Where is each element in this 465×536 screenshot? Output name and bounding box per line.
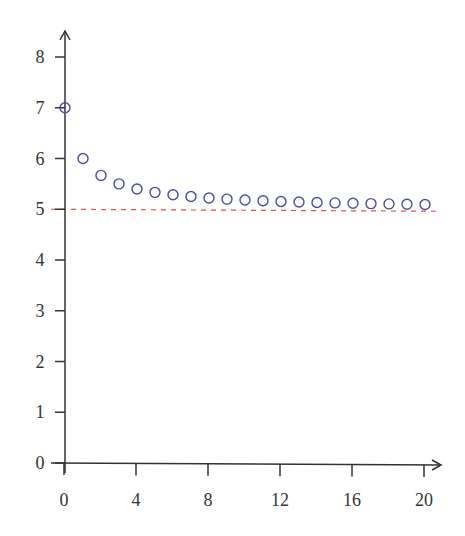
y-tick-label: 3 xyxy=(36,301,45,321)
data-point xyxy=(204,193,214,203)
data-point xyxy=(402,199,412,209)
data-point xyxy=(96,170,106,180)
data-point xyxy=(240,195,250,205)
data-points xyxy=(60,103,430,210)
y-tick-label: 6 xyxy=(36,149,45,169)
data-point xyxy=(348,198,358,208)
x-tick-label: 20 xyxy=(415,490,433,510)
y-tick-label: 1 xyxy=(36,402,45,422)
data-point xyxy=(258,196,268,206)
y-tick-label: 4 xyxy=(36,250,45,270)
y-tick-label: 8 xyxy=(36,47,45,67)
data-point xyxy=(294,197,304,207)
x-tick-label: 8 xyxy=(204,490,213,510)
x-axis xyxy=(51,463,441,465)
x-tick-label: 0 xyxy=(60,490,69,510)
reference-lines xyxy=(51,209,437,211)
data-point xyxy=(330,198,340,208)
data-point xyxy=(420,199,430,209)
data-point xyxy=(312,198,322,208)
y-tick-label: 5 xyxy=(36,199,45,219)
data-point xyxy=(366,199,376,209)
data-point xyxy=(276,196,286,206)
data-point xyxy=(168,190,178,200)
x-tick-label: 16 xyxy=(343,490,361,510)
chart: 012345678 048121620 xyxy=(0,0,465,536)
data-point xyxy=(114,179,124,189)
data-point xyxy=(186,192,196,202)
x-tick-label: 12 xyxy=(271,490,289,510)
scatter-plot: 012345678 048121620 xyxy=(0,0,465,536)
data-point xyxy=(384,199,394,209)
y-tick-label: 0 xyxy=(36,453,45,473)
y-tick-label: 2 xyxy=(36,352,45,372)
data-point xyxy=(222,194,232,204)
x-tick-label: 4 xyxy=(132,490,141,510)
y-tick-label: 7 xyxy=(36,98,45,118)
data-point xyxy=(150,187,160,197)
data-point xyxy=(132,184,142,194)
axes xyxy=(51,31,441,473)
reference-line xyxy=(51,209,437,211)
x-ticks: 048121620 xyxy=(60,463,434,510)
data-point xyxy=(78,154,88,164)
